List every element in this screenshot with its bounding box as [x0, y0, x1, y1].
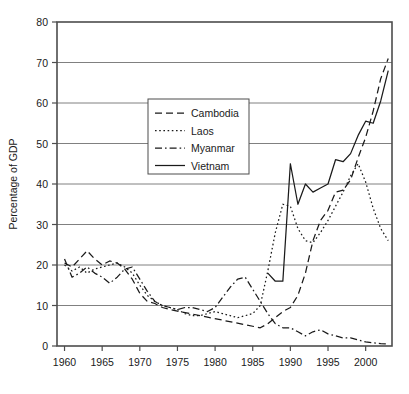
legend-label-laos: Laos [191, 125, 214, 137]
y-tick-label: 50 [36, 138, 48, 150]
line-chart: 01020304050607080 1960196519701975198019… [0, 0, 409, 394]
legend-label-myanmar: Myanmar [191, 142, 235, 154]
legend-label-vietnam: Vietnam [191, 160, 230, 172]
y-tick-label: 20 [36, 259, 48, 271]
x-tick-label: 1975 [166, 356, 190, 368]
series-line-myanmar [65, 259, 389, 344]
x-axis-tick-labels: 196019651970197519801985199019952000 [53, 356, 378, 368]
x-tick-label: 1960 [53, 356, 77, 368]
y-tick-label: 80 [36, 16, 48, 28]
x-tick-label: 1970 [128, 356, 152, 368]
y-tick-label: 40 [36, 178, 48, 190]
y-axis-tick-labels: 01020304050607080 [36, 16, 48, 352]
x-tick-label: 1995 [316, 356, 340, 368]
axis-ticks [52, 22, 366, 351]
y-tick-label: 70 [36, 57, 48, 69]
y-tick-label: 60 [36, 97, 48, 109]
x-tick-label: 2000 [354, 356, 378, 368]
y-axis-title: Percentage of GDP [7, 138, 19, 229]
series-line-vietnam [268, 71, 388, 282]
chart-container: 01020304050607080 1960196519701975198019… [0, 0, 409, 394]
chart-legend: CambodiaLaosMyanmarVietnam [148, 99, 249, 174]
x-tick-label: 1965 [90, 356, 114, 368]
y-tick-label: 30 [36, 219, 48, 231]
x-tick-label: 1985 [241, 356, 265, 368]
y-tick-label: 10 [36, 300, 48, 312]
x-tick-label: 1980 [203, 356, 227, 368]
series-line-laos [65, 164, 389, 318]
legend-label-cambodia: Cambodia [191, 107, 239, 119]
y-tick-label: 0 [42, 340, 48, 352]
x-tick-label: 1990 [279, 356, 303, 368]
